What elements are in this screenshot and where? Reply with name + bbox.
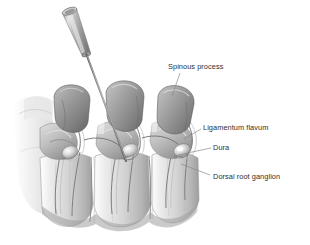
label-dura: Dura xyxy=(213,143,229,152)
illustration-page: Spinous process Ligamentum flavum Dura D… xyxy=(0,0,310,245)
label-dorsal-root-ganglion: Dorsal root ganglion xyxy=(213,172,280,181)
label-spinous-process: Spinous process xyxy=(168,62,223,71)
vertebral-bodies xyxy=(40,151,199,231)
spinous-processes xyxy=(54,81,194,134)
label-ligamentum-flavum: Ligamentum flavum xyxy=(203,123,268,132)
